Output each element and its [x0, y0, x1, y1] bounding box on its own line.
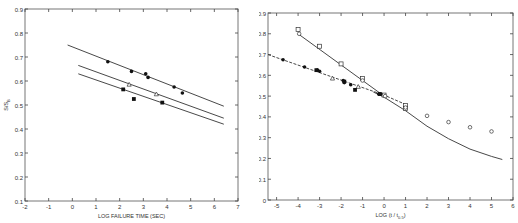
y-tick-label: 0.8	[15, 31, 24, 37]
x-tick-label: 7	[236, 204, 240, 210]
y-tick-label: 0.7	[259, 52, 267, 58]
data-point	[160, 101, 164, 105]
data-point	[314, 68, 318, 72]
x-tick-label: 5	[490, 203, 494, 209]
x-tick-label: -5	[274, 203, 280, 209]
y-tick-label: 0	[263, 198, 267, 204]
data-point	[383, 94, 387, 98]
data-point	[447, 120, 451, 124]
y-tick-label: 0.4	[15, 127, 24, 133]
left-chart-plot: 0.10.20.30.40.50.60.70.80.9-2-101234567L…	[0, 0, 259, 223]
data-point	[146, 76, 150, 80]
y-tick-label: 0.3	[259, 135, 267, 141]
data-point	[353, 88, 357, 92]
x-tick-label: -1	[360, 203, 366, 209]
x-tick-label: -4	[295, 203, 301, 209]
data-point	[342, 80, 346, 84]
plot-frame	[268, 13, 513, 200]
y-tick-label: 0.2	[259, 156, 267, 162]
y-tick-label: 0.9	[15, 7, 24, 13]
data-point	[404, 106, 408, 110]
x-tick-label: 4	[468, 203, 472, 209]
x-tick-label: 6	[213, 204, 217, 210]
right-chart: 00.10.20.30.40.50.60.70.80.9-5-4-3-2-101…	[259, 0, 518, 223]
y-tick-label: 0.9	[259, 11, 267, 17]
data-point	[318, 44, 322, 48]
plot-frame	[25, 9, 238, 201]
data-point	[330, 76, 334, 80]
y-tick-label: 0.5	[15, 103, 24, 109]
data-point	[181, 91, 185, 95]
x-tick-label: -3	[317, 203, 323, 209]
right-chart-plot: 00.10.20.30.40.50.60.70.80.9-5-4-3-2-101…	[259, 0, 518, 223]
x-tick-label: 5	[189, 204, 193, 210]
x-tick-label: 1	[404, 203, 408, 209]
y-tick-label: 0.5	[259, 94, 267, 100]
x-tick-label: 3	[142, 204, 146, 210]
data-point	[378, 92, 382, 96]
x-tick-label: 0	[71, 204, 75, 210]
data-point	[318, 69, 322, 73]
data-point	[361, 79, 365, 83]
fit-line	[78, 65, 224, 118]
y-tick-label: 0.2	[15, 175, 24, 181]
data-point	[303, 65, 307, 69]
data-point	[339, 62, 343, 66]
data-point	[349, 83, 353, 87]
data-point	[296, 28, 300, 32]
x-tick-label: 1	[94, 204, 98, 210]
x-tick-label: 0	[382, 203, 386, 209]
data-point	[106, 60, 110, 64]
y-tick-label: 0.7	[15, 55, 24, 61]
data-point	[144, 72, 148, 76]
x-tick-label: -2	[338, 203, 344, 209]
data-point	[425, 114, 429, 118]
x-tick-label: 3	[447, 203, 451, 209]
y-tick-label: 0.8	[259, 31, 267, 37]
data-point	[172, 85, 176, 89]
fit-line	[373, 92, 502, 160]
x-tick-label: -1	[46, 204, 52, 210]
y-tick-label: 0.6	[15, 79, 24, 85]
data-point	[490, 130, 494, 134]
y-tick-label: 0.3	[15, 151, 24, 157]
x-axis-label: LOG FAILURE TIME (SEC)	[98, 213, 165, 219]
x-tick-label: -2	[22, 204, 28, 210]
x-tick-label: 4	[165, 204, 169, 210]
x-tick-label: 6	[511, 203, 515, 209]
y-tick-label: 0.1	[259, 177, 267, 183]
fit-line	[78, 74, 224, 124]
data-point	[130, 70, 134, 74]
left-chart: 0.10.20.30.40.50.60.70.80.9-2-101234567L…	[0, 0, 259, 223]
x-tick-label: 2	[425, 203, 429, 209]
data-point	[281, 58, 285, 62]
data-point	[297, 32, 301, 36]
y-axis-label: S/SB	[3, 99, 11, 111]
data-point	[121, 88, 125, 92]
y-tick-label: 0.6	[259, 73, 267, 79]
data-point	[132, 97, 136, 101]
x-tick-label: 2	[118, 204, 122, 210]
data-point	[468, 125, 472, 129]
x-axis-label: LOG (t / t0.5)	[375, 212, 405, 220]
y-tick-label: 0.4	[259, 114, 267, 120]
